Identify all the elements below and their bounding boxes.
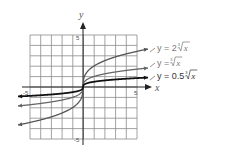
legend-label: y = 2 <box>157 43 177 53</box>
y-axis-label: y <box>78 9 84 20</box>
x-min-tick-label: -5 <box>23 90 29 96</box>
radical-index: 3 <box>185 70 188 75</box>
curve-arrow-icon <box>18 94 22 98</box>
radicand: x <box>183 43 188 53</box>
y-max-tick-label: 5 <box>76 35 80 41</box>
y-axis-arrow-icon <box>80 22 86 29</box>
radical-index: 3 <box>178 42 181 47</box>
cube-root-graph: y x 5 -5 -5 5 y = 23xy = 3xy = 0.53x <box>0 0 225 153</box>
legend: y = 23xy = 3xy = 0.53x <box>150 42 197 81</box>
curve-arrow-icon <box>144 66 148 70</box>
legend-item: y = 0.53x <box>150 70 197 81</box>
legend-label: y = 0.5 <box>157 71 184 81</box>
curve-arrow-icon <box>18 104 22 108</box>
x-axis-arrow-icon <box>145 84 152 90</box>
radicand: x <box>190 71 195 81</box>
radical-index: 3 <box>170 57 173 62</box>
curve-arrow-icon <box>144 76 148 80</box>
y-min-tick-label: -5 <box>74 137 80 143</box>
legend-label: y = <box>157 58 169 68</box>
leader-line <box>150 48 155 52</box>
radicand: x <box>175 58 180 68</box>
legend-item: y = 3x <box>150 57 182 68</box>
x-axis-label: x <box>154 82 160 93</box>
legend-item: y = 23x <box>150 42 190 53</box>
leader-line <box>150 63 155 67</box>
leader-line <box>150 76 155 80</box>
